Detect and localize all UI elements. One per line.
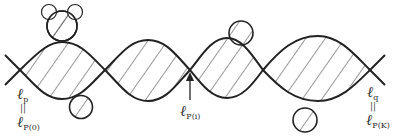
label-left-equals: || [20,103,26,113]
label-l-pk-sub: P(K) [372,121,390,130]
bottom-circle-1 [70,96,93,119]
label-l-p0-sub: P(0) [23,123,40,132]
lens-2 [105,40,190,101]
arrow-to-crossing [186,72,194,100]
bottom-circle-2 [293,108,317,132]
label-l-p0: ℓP(0) [17,114,40,132]
lens-4 [263,36,370,101]
top-circle-2 [229,21,253,45]
lens-3 [190,38,263,98]
top-circle-1-front [47,11,77,41]
hatched-lenses [20,36,370,101]
label-l-pk: ℓP(K) [366,112,390,130]
label-right-equals: || [370,101,376,111]
label-l-pi-sub: P(i) [186,112,200,121]
label-l-q: ℓq [367,84,378,102]
label-l-p: ℓp [17,86,28,104]
lens-1 [20,42,105,99]
label-l-pi: ℓP(i) [180,103,200,121]
